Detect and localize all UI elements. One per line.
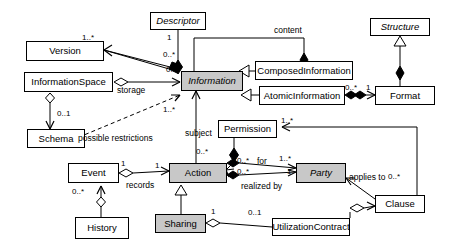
class-box-action[interactable]: Action <box>169 163 227 183</box>
class-label-history: History <box>87 223 117 233</box>
class-box-composedinformation[interactable]: ComposedInformation <box>255 61 353 80</box>
class-label-permission: Permission <box>224 124 271 134</box>
multiplicity-for-source: 0..* <box>237 157 249 165</box>
class-box-party[interactable]: Party <box>296 163 346 183</box>
multiplicity-action-records: 1 <box>155 162 159 170</box>
multiplicity-history-event: 0..* <box>72 188 84 196</box>
class-label-schema: Schema <box>39 134 74 144</box>
class-label-version: Version <box>49 46 81 56</box>
multiplicity-descriptor-source: 1 <box>167 34 171 42</box>
class-label-atomicinformation: AtomicInformation <box>264 91 341 101</box>
role-label-realized-by: realized by <box>241 182 282 191</box>
class-box-structure[interactable]: Structure <box>370 18 430 36</box>
class-box-atomicinformation[interactable]: AtomicInformation <box>259 86 345 105</box>
multiplicity-version: 1..* <box>82 34 94 42</box>
class-label-utilizationcontract: UtilizationContract <box>272 222 349 232</box>
class-label-sharing: Sharing <box>164 219 197 229</box>
class-label-informationspace: InformationSpace <box>31 77 105 87</box>
class-box-clause[interactable]: Clause <box>375 195 425 213</box>
uml-diagram-canvas: Information (hollow aggregation diamond)… <box>0 0 449 251</box>
class-label-event: Event <box>81 168 105 178</box>
role-label-storage: storage <box>117 86 145 95</box>
class-label-action: Action <box>185 168 211 178</box>
role-label-content: content <box>274 26 302 35</box>
multiplicity-realized-source: 0..* <box>237 168 249 176</box>
role-label-for: for <box>257 157 267 166</box>
role-label-records: records <box>126 181 154 190</box>
multiplicity-informationspace-schema: 0..1 <box>57 110 70 118</box>
class-box-history[interactable]: History <box>75 217 129 239</box>
multiplicity-contract-sharing: 0..1 <box>248 209 261 217</box>
multiplicity-party-realized: 1 <box>287 168 291 176</box>
multiplicity-event-records: 1 <box>121 160 125 168</box>
class-label-format: Format <box>390 91 420 101</box>
multiplicity-clause-applies: 0..* <box>388 173 400 181</box>
multiplicity-permission: 1..* <box>281 117 293 125</box>
class-label-structure: Structure <box>381 22 420 32</box>
multiplicity-atomicinformation: 0..* <box>345 84 357 92</box>
multiplicity-format: 1 <box>366 84 370 92</box>
class-box-format[interactable]: Format <box>375 86 435 105</box>
class-label-party: Party <box>310 168 332 178</box>
multiplicity-sharing-contract: 1 <box>211 208 215 216</box>
multiplicity-information-version: 0.. <box>166 66 175 74</box>
class-label-information: Information <box>188 76 236 86</box>
role-label-subject: subject <box>185 129 212 138</box>
class-box-permission[interactable]: Permission <box>218 120 277 138</box>
multiplicity-action-subject: 0..* <box>196 148 208 156</box>
class-label-clause: Clause <box>385 199 415 209</box>
class-box-version[interactable]: Version <box>26 41 104 61</box>
class-box-schema[interactable]: Schema <box>27 129 85 148</box>
role-label-applies-to: applies to <box>349 173 385 182</box>
multiplicity-party-for: 1..* <box>279 155 291 163</box>
class-box-information[interactable]: Information <box>181 71 243 91</box>
class-box-informationspace[interactable]: InformationSpace <box>24 72 113 92</box>
class-box-event[interactable]: Event <box>68 163 119 183</box>
class-box-utilizationcontract[interactable]: UtilizationContract <box>272 218 350 236</box>
class-label-descriptor: Descriptor <box>156 16 199 26</box>
multiplicity-information-schema: 1..* <box>163 106 175 114</box>
class-box-descriptor[interactable]: Descriptor <box>150 12 206 30</box>
class-label-composedinformation: ComposedInformation <box>257 66 350 76</box>
multiplicity-descriptor-target: 0..* <box>163 51 175 59</box>
class-box-sharing[interactable]: Sharing <box>155 214 206 233</box>
role-label-possible-restrictions: possible restrictions <box>78 134 153 143</box>
